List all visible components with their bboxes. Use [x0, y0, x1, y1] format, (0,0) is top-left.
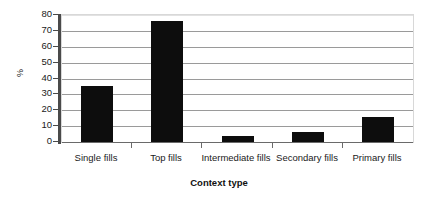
gridline-80 [62, 15, 413, 16]
x-tick-3 [342, 143, 343, 148]
x-tick-1 [201, 143, 202, 148]
y-tick-50 [53, 62, 59, 63]
gridline-40 [62, 79, 413, 80]
plot-area [61, 14, 414, 143]
gridline-70 [62, 31, 413, 32]
y-tick-80 [53, 14, 59, 15]
bar-intermediate-fills [222, 136, 254, 142]
category-label-intermediate-fills: Intermediate fills [201, 152, 271, 163]
x-axis-title: Context type [0, 177, 438, 188]
y-axis-label-30: 30 [30, 88, 52, 98]
gridline-10 [62, 126, 413, 127]
y-axis-label-10: 10 [30, 120, 52, 130]
y-tick-0 [53, 141, 59, 142]
category-label-single-fills: Single fills [61, 152, 131, 163]
bar-single-fills [81, 86, 113, 142]
bar-chart-figure: % 01020304050607080 Single fillsTop fill… [0, 0, 438, 204]
y-tick-30 [53, 93, 59, 94]
y-axis-label-80: 80 [30, 9, 52, 19]
bar-top-fills [151, 21, 183, 142]
y-axis-label-70: 70 [30, 25, 52, 35]
y-tick-20 [53, 109, 59, 110]
category-label-top-fills: Top fills [131, 152, 201, 163]
y-axis-title: % [15, 63, 25, 83]
y-tick-10 [53, 125, 59, 126]
gridline-60 [62, 47, 413, 48]
x-axis-ticks [61, 143, 414, 148]
gridline-30 [62, 94, 413, 95]
gridline-50 [62, 63, 413, 64]
gridline-20 [62, 110, 413, 111]
y-axis-label-50: 50 [30, 57, 52, 67]
y-axis-tick-labels: 01020304050607080 [26, 0, 52, 204]
x-tick-0 [131, 143, 132, 148]
y-tick-70 [53, 30, 59, 31]
bar-primary-fills [362, 117, 394, 142]
x-tick-2 [272, 143, 273, 148]
y-axis-label-0: 0 [30, 136, 52, 146]
y-axis-label-60: 60 [30, 41, 52, 51]
category-label-primary-fills: Primary fills [342, 152, 412, 163]
y-axis-label-40: 40 [30, 73, 52, 83]
y-axis-label-20: 20 [30, 104, 52, 114]
bar-secondary-fills [292, 132, 324, 142]
y-tick-60 [53, 46, 59, 47]
category-label-secondary-fills: Secondary fills [272, 152, 342, 163]
y-tick-40 [53, 78, 59, 79]
